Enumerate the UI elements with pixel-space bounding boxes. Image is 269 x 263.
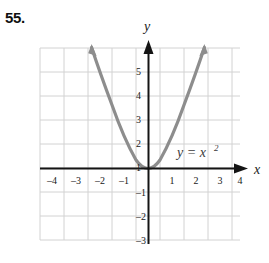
x-axis-label: x — [253, 162, 261, 177]
y-axis-label: y — [142, 19, 151, 34]
x-tick-label: –1 — [118, 175, 129, 186]
y-tick-label: –2 — [135, 211, 146, 222]
y-tick-label: –1 — [135, 187, 146, 198]
y-tick-label: 2 — [136, 138, 141, 149]
curve-right-arrow-icon — [199, 44, 207, 56]
figure-container: 55. — [0, 0, 269, 263]
x-axis-arrow-icon — [234, 164, 248, 174]
x-tick-label: 4 — [238, 175, 243, 186]
curve-left-arrow-icon — [88, 44, 96, 56]
equation-label: y = x — [175, 145, 207, 160]
y-tick-label: –3 — [135, 235, 146, 246]
x-tick-label: –2 — [94, 175, 105, 186]
y-tick-label: 4 — [136, 90, 141, 101]
x-tick-label: 3 — [218, 175, 223, 186]
coordinate-graph: y x –4 –3 –2 –1 1 2 3 4 5 4 3 2 1 –1 –2 … — [0, 0, 269, 263]
x-tick-label: –3 — [70, 175, 81, 186]
y-tick-label: 3 — [136, 114, 141, 125]
x-tick-label: –4 — [46, 175, 57, 186]
x-tick-label: 2 — [194, 175, 199, 186]
y-axis-arrow-icon — [144, 40, 154, 54]
y-tick-label: 5 — [136, 66, 141, 77]
x-tick-label: 1 — [170, 175, 175, 186]
equation-annotation: y = x 2 — [175, 143, 219, 160]
y-tick-label: 1 — [136, 162, 141, 173]
equation-exponent: 2 — [214, 143, 219, 153]
